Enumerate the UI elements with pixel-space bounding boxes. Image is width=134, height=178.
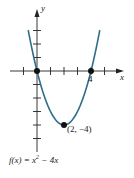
function-formula: f(x) = x2 − 4x xyxy=(9,154,58,165)
key-points xyxy=(34,68,94,128)
x-axis-label: x xyxy=(120,72,124,82)
formula-prefix: f(x) = x xyxy=(9,155,36,165)
y-axis-arrow-icon xyxy=(35,9,40,17)
formula-suffix: − 4x xyxy=(39,155,58,165)
function-graph xyxy=(0,0,134,178)
x-tick-label-4: 4 xyxy=(88,74,93,84)
vertex-label: (2, −4) xyxy=(67,124,92,134)
y-axis-label: y xyxy=(41,3,45,13)
point-marker xyxy=(34,68,40,74)
